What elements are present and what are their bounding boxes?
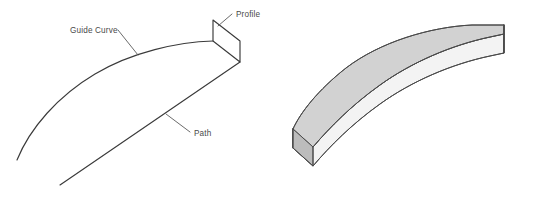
diagram-canvas: Guide Curve Profile Path bbox=[0, 0, 553, 201]
path-line bbox=[60, 62, 240, 185]
profile-shape bbox=[213, 20, 240, 62]
path-leader bbox=[166, 114, 190, 132]
path-label: Path bbox=[194, 129, 212, 138]
sweep-guide-curve-diagram: Guide Curve Profile Path bbox=[0, 0, 553, 201]
left-panel-wireframe: Guide Curve Profile Path bbox=[17, 10, 261, 185]
profile-label: Profile bbox=[236, 10, 261, 19]
right-panel-solid bbox=[293, 25, 504, 166]
profile-leader bbox=[218, 14, 232, 26]
guide-curve-leader bbox=[118, 30, 138, 55]
guide-curve-label: Guide Curve bbox=[70, 26, 118, 35]
